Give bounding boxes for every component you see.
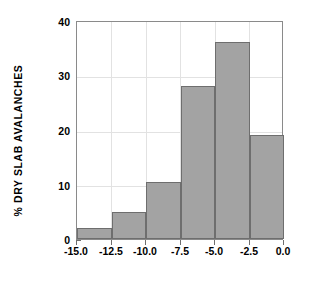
y-tick-label-40: 40 (44, 17, 70, 27)
bar-bin-3 (146, 182, 181, 239)
x-tick-label-0: 0.0 (261, 246, 305, 257)
y-tick-label-30: 30 (44, 71, 70, 81)
bar-bin-4 (181, 86, 216, 239)
plot-area (76, 21, 283, 240)
bar-group (77, 22, 282, 239)
bar-bin-1 (77, 228, 112, 239)
bar-bin-5 (215, 42, 250, 239)
bar-bin-2 (112, 212, 147, 239)
y-tick-label-0: 0 (44, 235, 70, 245)
histogram-figure: % DRY SLAB AVALANCHES 40 30 20 10 0 (0, 0, 309, 281)
bar-bin-6 (250, 135, 285, 239)
y-tick-label-20: 20 (44, 126, 70, 136)
y-tick-label-10: 10 (44, 181, 70, 191)
y-axis-title: % DRY SLAB AVALANCHES (0, 0, 36, 281)
